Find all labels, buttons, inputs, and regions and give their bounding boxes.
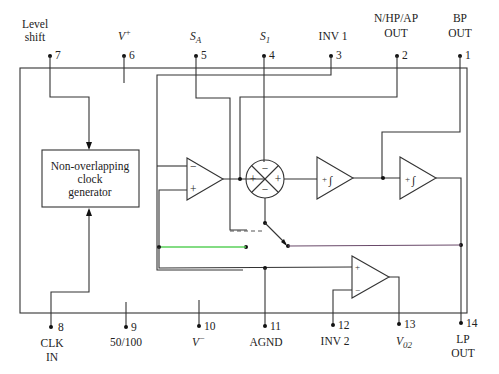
switch-sa (157, 223, 461, 249)
pin-10-vminus: 10 V− (192, 300, 216, 348)
svg-text:−: − (190, 160, 197, 172)
svg-text:+: + (355, 262, 360, 272)
svg-text:12: 12 (338, 319, 350, 331)
svg-text:50/100: 50/100 (110, 336, 142, 348)
svg-text:+: + (275, 173, 282, 185)
svg-text:13: 13 (404, 318, 416, 330)
svg-text:+: + (322, 174, 327, 184)
svg-text:∫: ∫ (411, 174, 416, 187)
svg-text:V+: V+ (118, 27, 131, 42)
svg-text:IN: IN (46, 351, 59, 363)
pin-9-50-100: 9 50/100 (110, 302, 142, 348)
svg-text:14: 14 (466, 317, 478, 329)
svg-text:S1: S1 (260, 30, 270, 45)
svg-text:OUT: OUT (448, 27, 472, 39)
svg-text:7: 7 (55, 49, 61, 61)
svg-text:6: 6 (129, 49, 135, 61)
svg-text:9: 9 (131, 321, 137, 333)
filter-ic-block-diagram: Level shift 7 V+ 6 SA 5 S1 4 INV 1 3 N/H… (0, 0, 499, 374)
svg-text:shift: shift (25, 31, 46, 43)
svg-text:AGND: AGND (249, 336, 282, 348)
pin-8-clk-in: 8 CLK IN (41, 321, 65, 363)
svg-text:−: − (262, 162, 269, 174)
opamp-1: − + (157, 158, 266, 245)
pin-14-lp-out: 14 LP OUT (451, 317, 478, 359)
integrator-2: + ∫ (400, 157, 463, 322)
svg-text:+: + (250, 173, 257, 185)
pin-3-inv1: INV 1 3 (157, 30, 348, 270)
svg-text:SA: SA (190, 30, 202, 45)
svg-text:3: 3 (336, 49, 342, 61)
svg-text:8: 8 (58, 321, 64, 333)
svg-text:2: 2 (402, 49, 408, 61)
pin-7-level-shift: Level shift 7 (22, 18, 92, 150)
svg-text:+: + (405, 174, 410, 184)
svg-text:N/HP/AP: N/HP/AP (374, 12, 418, 24)
svg-text:generator: generator (68, 186, 112, 199)
svg-text:BP: BP (453, 12, 467, 24)
svg-text:INV 1: INV 1 (319, 30, 348, 42)
svg-text:Level: Level (22, 18, 48, 30)
svg-text:OUT: OUT (451, 347, 475, 359)
svg-text:Non-overlapping: Non-overlapping (51, 160, 130, 173)
svg-text:5: 5 (201, 49, 207, 61)
svg-text:V02: V02 (396, 335, 413, 350)
svg-text:CLK: CLK (41, 337, 65, 349)
arrow-up-icon (86, 208, 92, 216)
svg-text:LP: LP (456, 333, 469, 345)
svg-text:−: − (355, 285, 360, 295)
svg-text:OUT: OUT (384, 27, 408, 39)
svg-text:+: + (190, 183, 197, 195)
pin-5-sa: SA 5 (190, 30, 247, 230)
svg-text:11: 11 (270, 320, 281, 332)
svg-text:∫: ∫ (328, 174, 333, 187)
svg-text:10: 10 (204, 320, 216, 332)
integrator-1: + ∫ (317, 157, 400, 199)
svg-text:clock: clock (78, 173, 103, 185)
clock-generator-block: Non-overlapping clock generator (42, 150, 139, 207)
arrow-down-icon (86, 142, 92, 150)
pin-13-v02: 13 V02 (396, 318, 416, 350)
summing-junction: − + + − (246, 160, 317, 225)
pin-11-agnd: 11 AGND (249, 268, 282, 348)
pin-12-inv2: 12 INV 2 (321, 319, 350, 347)
svg-text:V−: V− (192, 333, 205, 348)
pin-4-s1: S1 4 (260, 30, 275, 162)
pin-6-vplus: V+ 6 (118, 27, 135, 83)
svg-text:4: 4 (269, 49, 275, 61)
svg-text:−: − (262, 183, 269, 195)
svg-text:1: 1 (465, 49, 471, 61)
svg-text:INV 2: INV 2 (321, 335, 350, 347)
